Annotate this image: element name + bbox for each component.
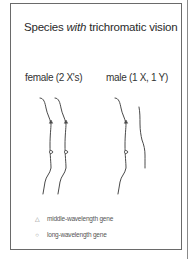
legend-item-long-wavelength: ○ long-wavelength gene [33, 231, 107, 238]
male-x-chromosome [115, 98, 128, 194]
male-y-chromosome [139, 107, 145, 168]
legend-item-middle-wavelength: △ middle-wavelength gene [33, 215, 113, 222]
triangle-icon: △ [33, 215, 41, 222]
female-x-chromosome-2 [55, 98, 68, 194]
circle-icon [124, 150, 127, 153]
circle-icon [49, 150, 52, 153]
circle-icon: ○ [33, 232, 41, 238]
female-x-chromosome-1 [40, 98, 53, 194]
legend-label: long-wavelength gene [47, 231, 107, 238]
legend-label: middle-wavelength gene [47, 215, 113, 222]
circle-icon [64, 150, 67, 153]
